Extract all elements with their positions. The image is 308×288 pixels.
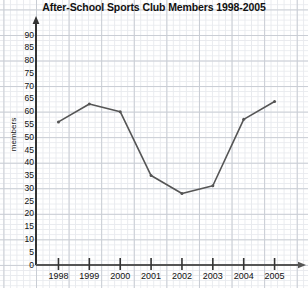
y-axis-tick-labels: 051015202530354045505560657075808590 — [0, 0, 34, 288]
plot-svg — [0, 0, 308, 288]
data-line-series-members — [58, 101, 274, 193]
data-point — [180, 192, 183, 195]
y-axis-tick-label: 10 — [4, 235, 34, 244]
y-axis-tick-label: 5 — [4, 248, 34, 257]
x-axis-tick-label: 2005 — [255, 271, 295, 281]
data-point — [88, 103, 91, 106]
x-axis — [36, 262, 306, 268]
y-axis-tick-label: 80 — [4, 56, 34, 65]
data-point — [273, 100, 276, 103]
y-axis-tick-label: 40 — [4, 158, 34, 167]
y-axis-tick-label: 60 — [4, 107, 34, 116]
y-axis-tick-label: 65 — [4, 94, 34, 103]
data-point — [211, 184, 214, 187]
y-axis-tick-label: 75 — [4, 69, 34, 78]
data-point — [242, 118, 245, 121]
y-axis-tick-label: 85 — [4, 43, 34, 52]
y-axis-tick-label: 20 — [4, 209, 34, 218]
y-axis-tick-label: 45 — [4, 146, 34, 155]
y-axis-tick-label: 90 — [4, 31, 34, 40]
data-point — [150, 174, 153, 177]
y-axis-tick-label: 55 — [4, 120, 34, 129]
y-axis-tick-label: 35 — [4, 171, 34, 180]
y-axis-tick-label: 30 — [4, 184, 34, 193]
line-chart: After-School Sports Club Members 1998-20… — [0, 0, 308, 288]
data-point — [119, 110, 122, 113]
data-point-markers — [57, 100, 276, 195]
data-point — [57, 120, 60, 123]
y-axis-tick-label: 25 — [4, 197, 34, 206]
y-axis-tick-label: 50 — [4, 133, 34, 142]
y-axis-tick-label: 70 — [4, 82, 34, 91]
chart-title: After-School Sports Club Members 1998-20… — [0, 1, 308, 13]
y-axis-tick-label: 15 — [4, 222, 34, 231]
y-axis-tick-label: 0 — [4, 261, 34, 270]
